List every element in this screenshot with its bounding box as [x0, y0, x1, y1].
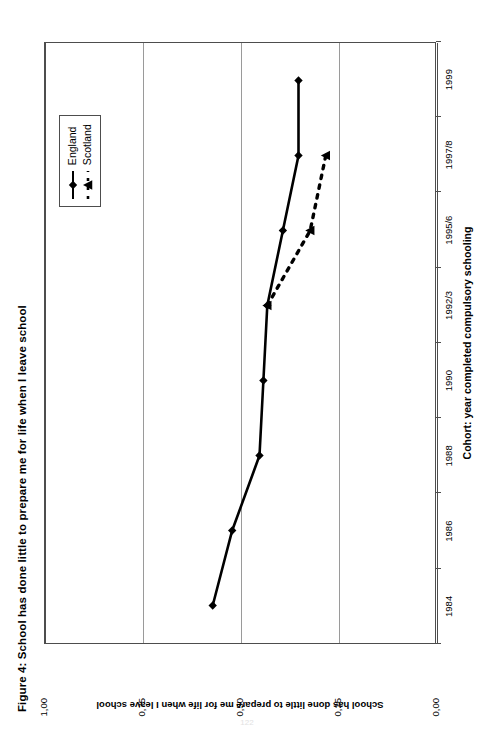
- data-point-england: [255, 451, 263, 459]
- series-line-england: [213, 81, 299, 606]
- x-axis-tick: [436, 116, 441, 117]
- x-axis-title: Cohort: year completed compulsory school…: [461, 42, 473, 644]
- x-tick-label: 1997/8: [443, 140, 454, 169]
- plot-area: EnglandScotland: [44, 42, 436, 644]
- x-tick-label: 1988: [443, 445, 454, 466]
- page-canvas: Figure 4: School has done little to prep…: [0, 0, 494, 736]
- x-axis-tick: [436, 342, 441, 343]
- triangle-marker-icon: [81, 170, 95, 200]
- x-axis-tick: [436, 643, 441, 644]
- x-axis-tick: [436, 568, 441, 569]
- x-tick-label: 1995/6: [443, 216, 454, 245]
- x-axis-tick: [436, 267, 441, 268]
- x-axis-tick: [436, 492, 441, 493]
- x-tick-label: 1990: [443, 370, 454, 391]
- data-point-england: [279, 226, 287, 234]
- legend-label: Scotland: [80, 124, 95, 165]
- series-line-scotland: [267, 156, 326, 306]
- y-tick-label: 0,00: [430, 698, 441, 736]
- chart-legend: EnglandScotland: [59, 115, 101, 207]
- page-number: 122: [0, 718, 494, 727]
- x-axis-tick: [436, 417, 441, 418]
- x-axis-tick: [436, 41, 441, 42]
- figure-title: Figure 4: School has done little to prep…: [16, 305, 28, 712]
- x-tick-label: 1986: [443, 521, 454, 542]
- x-tick-label: 1999: [443, 69, 454, 90]
- y-tick-label: 0,50: [234, 698, 245, 736]
- diamond-marker-icon: [66, 170, 80, 200]
- gridline-0,00: [437, 43, 438, 643]
- data-point-england: [228, 526, 236, 534]
- legend-label: England: [65, 127, 80, 166]
- data-point-england: [294, 76, 302, 84]
- figure: Figure 4: School has done little to prep…: [12, 18, 482, 718]
- data-point-england: [294, 151, 302, 159]
- x-tick-label: 1992/3: [443, 291, 454, 320]
- y-tick-label: 0,75: [136, 698, 147, 736]
- x-tick-label: 1984: [443, 596, 454, 617]
- x-axis-tick: [436, 191, 441, 192]
- rotated-figure-wrapper: Figure 4: School has done little to prep…: [12, 18, 482, 718]
- data-point-england: [259, 376, 267, 384]
- data-point-england: [209, 601, 217, 609]
- y-tick-label: 0,25: [332, 698, 343, 736]
- y-tick-label: 1,00: [38, 698, 49, 736]
- legend-item-scotland[interactable]: Scotland: [80, 124, 95, 200]
- legend-item-england[interactable]: England: [65, 124, 80, 200]
- series-layer: [45, 43, 435, 643]
